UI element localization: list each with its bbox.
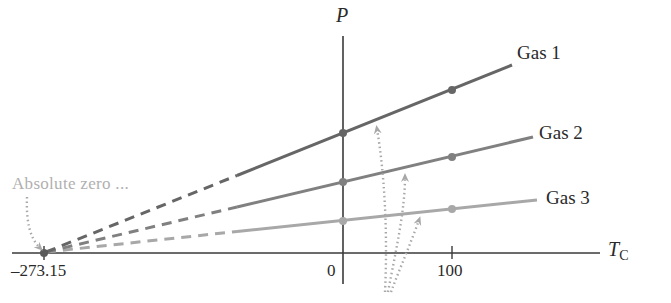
series-gas-3 [46, 200, 537, 252]
tick-label-abs-zero: –273.15 [11, 261, 66, 281]
absolute-zero-annotation: Absolute zero ... [12, 174, 129, 194]
legend-gas-1: Gas 1 [517, 42, 561, 64]
x-axis-label-main: T [608, 238, 619, 260]
tick-label-zero: 0 [327, 261, 336, 281]
gas1-point-0 [339, 129, 347, 137]
pressure-temperature-chart [0, 0, 671, 303]
gas3-point-0 [339, 217, 347, 225]
y-axis-label: P [336, 4, 348, 27]
legend-gas-2: Gas 2 [539, 122, 583, 144]
x-axis-label: TC [608, 238, 628, 264]
x-axis-label-sub: C [619, 248, 628, 263]
gas3-point-100 [448, 205, 456, 213]
gas1-point-100 [448, 86, 456, 94]
legend-gas-3: Gas 3 [546, 187, 590, 209]
absolute-zero-point [40, 249, 48, 257]
tick-label-100: 100 [437, 261, 463, 281]
gas2-point-100 [448, 153, 456, 161]
measured-points-arrows [377, 129, 419, 292]
gas2-point-0 [339, 178, 347, 186]
absolute-zero-arrow [27, 197, 40, 248]
